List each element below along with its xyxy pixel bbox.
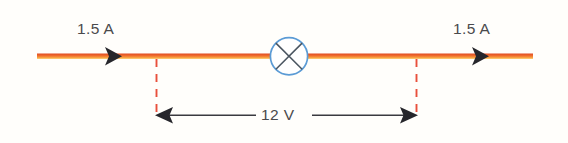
circuit-diagram: 1.5 A 1.5 A 12 V	[0, 0, 568, 143]
current-label-left: 1.5 A	[77, 21, 114, 37]
lamp-symbol	[270, 38, 307, 75]
current-label-right: 1.5 A	[453, 21, 490, 37]
wire-segment-right	[308, 54, 533, 59]
voltage-label: 12 V	[256, 107, 300, 123]
wire-segment-left	[37, 54, 270, 59]
